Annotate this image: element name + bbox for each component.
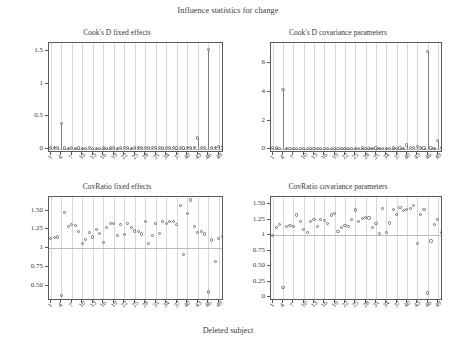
panel-covratio-fixed-effects: CovRatio fixed effects 0.500.7511.251.50… [8,182,226,328]
data-point [398,206,401,209]
data-point [402,147,405,150]
x-axis-tick-label: 22 [340,151,349,160]
x-axis-tick-label: 7 [288,302,295,309]
data-point [158,232,161,235]
data-point [203,232,206,235]
influence-statistics-figure: Influence statistics for change Cook's D… [0,0,456,345]
gridline-vertical [283,197,284,299]
stem-line [438,141,439,150]
gridline-vertical [219,43,220,151]
x-axis-tick-label: 49 [433,151,442,160]
data-point [207,48,210,51]
data-point [81,242,84,245]
x-axis-tick-label: 46 [423,299,432,308]
x-axis-tick-label: 43 [193,299,202,308]
x-axis-tick-label: 40 [182,299,191,308]
stem-line [441,148,442,150]
y-axis-tick-label: 4 [262,87,266,95]
panel-title-covratio-covariance-parameters: CovRatio covariance parameters [228,182,448,191]
figure-x-axis-label: Deleted subject [0,326,456,335]
x-axis-tick-label: 46 [203,299,212,308]
x-axis-tick-label: 34 [381,299,390,308]
data-point [292,225,295,228]
data-point [179,204,182,207]
data-point [405,143,408,146]
data-point [416,242,419,245]
x-axis-tick-label: 31 [371,151,380,160]
y-axis-tick [267,265,270,266]
x-axis-tick-label: 49 [433,299,442,308]
gridline-vertical [198,43,199,151]
gridline-vertical [304,43,305,151]
data-point [412,204,415,207]
stem-line [198,138,199,149]
y-axis-tick-label: 0 [262,144,266,152]
gridline-vertical [166,43,167,151]
x-axis-tick-label: 37 [172,151,181,160]
stem-line [61,124,62,150]
gridline-vertical [345,43,346,151]
data-point [98,232,101,235]
data-point [193,225,196,228]
gridline-vertical [114,43,115,151]
x-axis-tick-label: 34 [381,151,390,160]
x-axis-tick-label: 25 [350,299,359,308]
gridline-vertical [324,43,325,151]
data-point [440,231,442,234]
y-axis-tick-label: 1.5 [34,46,43,54]
y-axis-tick [267,281,270,282]
data-point [312,218,315,221]
y-axis-tick-label: 1 [40,243,44,251]
data-point [116,234,119,237]
gridline-vertical [324,197,325,299]
panel-cooks-d-fixed-effects: Cook's D fixed effects 00.511.5 14710131… [8,28,226,178]
data-point [63,211,66,214]
data-point [426,50,429,53]
y-axis-tick [267,62,270,63]
y-axis-tick-label: 0 [40,144,44,152]
x-axis-tick-label: 4 [278,154,285,161]
data-point [196,136,199,139]
data-point [388,221,391,224]
x-axis-tick-label: 40 [182,151,191,160]
x-axis-tick-label: 4 [56,302,63,309]
gridline-vertical [273,43,274,151]
data-point [333,212,336,215]
stem-line [208,50,209,150]
gridline-vertical [417,43,418,151]
stem-line [283,90,284,150]
data-point [49,237,52,240]
y-axis-tick [45,228,48,229]
data-point [140,232,143,235]
x-axis-tick-label: 34 [161,151,170,160]
data-point [196,231,199,234]
data-point [112,222,115,225]
y-axis-tick [267,250,270,251]
x-axis-tick-label: 1 [268,302,275,309]
y-axis-tick-label: 0.5 [34,111,43,119]
x-axis-tick-label: 1 [268,154,275,161]
y-axis-tick [267,120,270,121]
x-axis-tick-label: 49 [214,151,223,160]
data-point [88,231,91,234]
panel-title-cooks-d-covariance-parameters: Cook's D covariance parameters [228,28,448,37]
data-point [409,207,412,210]
gridline-vertical [438,43,439,151]
plot-area-covratio-covariance-parameters [270,196,442,300]
x-axis-tick-label: 7 [288,154,295,161]
y-axis-tick [267,296,270,297]
x-axis-tick-label: 7 [67,154,74,161]
data-point [133,229,136,232]
data-point [186,212,189,215]
y-axis-covratio-covariance-parameters: 00.250.500.7511.251.50 [228,196,270,300]
data-point [374,222,377,225]
data-point [281,88,284,91]
data-point [392,208,395,211]
gridline-vertical [407,197,408,299]
data-point [429,239,432,242]
y-axis-tick [45,266,48,267]
x-axis-tick-label: 37 [392,151,401,160]
gridline-vertical [376,43,377,151]
x-axis-tick-label: 4 [56,154,63,161]
y-axis-tick [45,285,48,286]
